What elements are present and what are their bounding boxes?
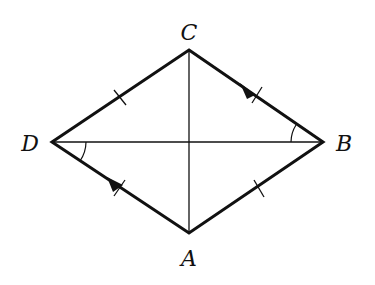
vertex-label-b: B <box>335 131 352 156</box>
vertex-label-d: D <box>20 131 39 156</box>
angle-mark-d <box>80 142 86 161</box>
angle-mark-b <box>291 125 296 142</box>
vertex-label-a: A <box>179 246 197 271</box>
rhombus-diagram: C B A D <box>0 0 375 285</box>
vertex-label-c: C <box>181 20 198 45</box>
parallel-arrow-da-icon <box>107 177 123 192</box>
parallel-arrow-cb-icon <box>240 83 255 99</box>
